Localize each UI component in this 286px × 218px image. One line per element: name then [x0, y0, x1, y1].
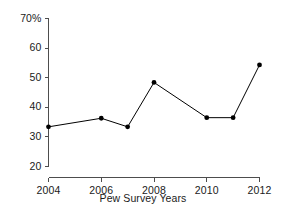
data-series-line [49, 65, 260, 127]
y-tick-label: 70% [20, 13, 41, 24]
y-tick-label: 50 [30, 72, 42, 83]
data-point [152, 80, 157, 85]
y-axis-spine [45, 19, 49, 167]
data-point [231, 115, 236, 120]
y-tick-label: 20 [30, 161, 42, 172]
x-axis-title: Pew Survey Years [0, 192, 286, 204]
data-point [99, 116, 104, 121]
data-point [204, 115, 209, 120]
y-tick-label: 60 [30, 42, 42, 53]
data-point [46, 124, 51, 129]
y-tick-label: 30 [30, 131, 42, 142]
x-axis-spine [49, 178, 260, 182]
y-tick-label: 40 [30, 101, 42, 112]
line-chart: 203040506070% 20042006200820102012 Pew S… [0, 0, 286, 218]
data-point [257, 63, 262, 68]
data-point [125, 124, 130, 129]
data-point-markers [46, 63, 262, 130]
